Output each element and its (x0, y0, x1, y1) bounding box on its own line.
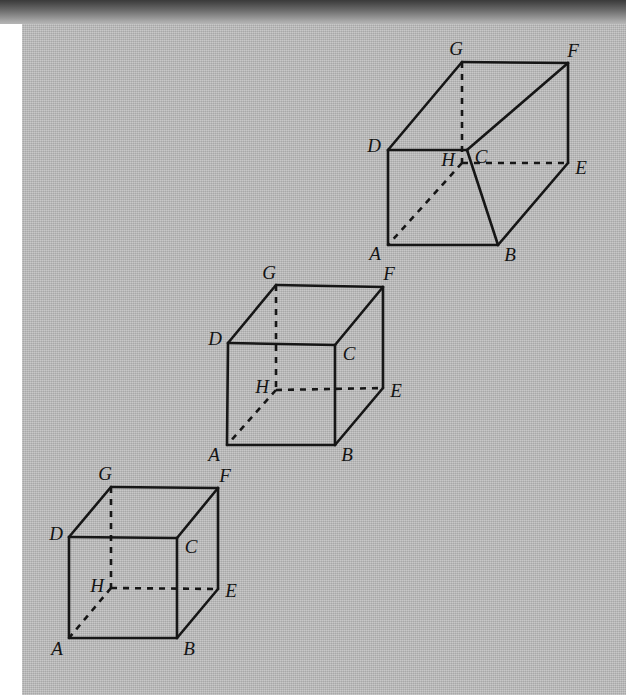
edge-EB (498, 163, 568, 245)
vertex-label-h: H (90, 576, 104, 595)
hidden-edge-HE (111, 588, 218, 589)
edges-layer (69, 62, 568, 638)
hidden-edge-HA (69, 588, 111, 638)
vertex-label-c: C (343, 344, 356, 363)
edge-DG (388, 62, 462, 150)
vertex-label-h: H (441, 150, 455, 169)
edge-DC (69, 537, 177, 538)
edge-EB (177, 589, 218, 638)
edge-DG (69, 487, 111, 537)
edge-CF (177, 488, 218, 538)
edge-GF (462, 62, 568, 63)
vertex-label-d: D (367, 136, 381, 155)
scanned-page: ABCDEFGHABCDEFGHABCDEFGH (0, 0, 626, 695)
vertex-label-e: E (225, 581, 237, 600)
vertex-label-c: C (475, 147, 488, 166)
vertex-label-d: D (208, 329, 222, 348)
hidden-edge-HE (276, 388, 383, 390)
vertex-label-e: E (390, 381, 402, 400)
edge-AD (227, 343, 228, 445)
vertex-label-b: B (341, 445, 353, 464)
vertex-label-a: A (369, 244, 381, 263)
vertex-label-g: G (98, 464, 112, 483)
vertex-label-g: G (262, 263, 276, 282)
edge-CF (467, 63, 568, 150)
hidden-edge-HA (388, 163, 462, 245)
vertex-label-b: B (504, 245, 516, 264)
vertex-label-a: A (51, 639, 63, 658)
vertex-label-h: H (255, 377, 269, 396)
edge-CF (335, 287, 383, 345)
vertex-label-f: F (383, 264, 395, 283)
edge-DG (228, 285, 276, 343)
vertex-label-g: G (449, 39, 463, 58)
edge-GF (276, 285, 383, 287)
hidden-edge-HA (227, 390, 276, 445)
edge-EB (335, 388, 383, 445)
vertex-label-c: C (185, 537, 198, 556)
vertex-label-d: D (49, 524, 63, 543)
edge-GF (111, 487, 218, 488)
figure-middle (227, 285, 383, 445)
vertex-label-f: F (219, 466, 231, 485)
vertex-label-f: F (567, 41, 579, 60)
edge-DC (228, 343, 335, 345)
vertex-label-e: E (575, 158, 587, 177)
figure-bottom (69, 487, 218, 638)
vertex-label-b: B (183, 639, 195, 658)
vertex-label-a: A (208, 445, 220, 464)
